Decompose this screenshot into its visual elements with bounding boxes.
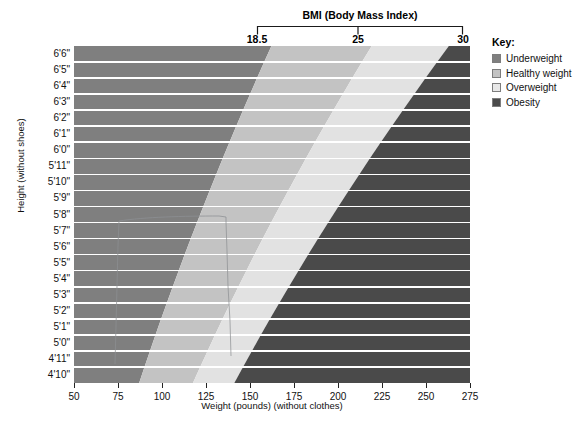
bmi-band-healthy-weight (229, 126, 324, 142)
bmi-band-overweight (208, 335, 261, 351)
bmi-band-healthy-weight (161, 303, 230, 319)
row-separator (74, 254, 470, 256)
y-tick-label: 4'11" (24, 354, 70, 364)
bmi-band-healthy-weight (243, 94, 343, 110)
bmi-band-obesity (298, 255, 470, 271)
legend-label: Underweight (506, 53, 562, 64)
row-separator (74, 109, 470, 111)
bmi-band-obesity (392, 110, 470, 126)
legend-swatch-icon (492, 54, 501, 63)
bmi-band-healthy-weight (173, 271, 247, 287)
row-separator (74, 270, 470, 272)
bmi-tick-label-25: 25 (338, 33, 378, 45)
bmi-band-overweight (200, 351, 252, 367)
legend-items: UnderweightHealthy weightOverweightObesi… (492, 53, 587, 108)
bmi-band-obesity (270, 303, 470, 319)
bmi-band-obesity (370, 142, 470, 158)
y-tick-label: 5'1" (24, 322, 70, 332)
bmi-band-underweight (74, 142, 229, 158)
row-separator (74, 350, 470, 352)
y-tick-label: 6'0" (24, 145, 70, 155)
bmi-band-healthy-weight (191, 223, 271, 239)
bmi-band-obesity (318, 223, 470, 239)
row-separator (74, 141, 470, 143)
y-tick-label: 5'6" (24, 242, 70, 252)
row-separator (74, 174, 470, 176)
row-separator (74, 93, 470, 95)
bmi-band-overweight (352, 62, 437, 78)
legend-swatch-icon (492, 98, 501, 107)
y-tick-label: 5'10" (24, 177, 70, 187)
bmi-band-obesity (381, 126, 470, 142)
bmi-band-overweight (263, 223, 328, 239)
bmi-tick-label-18-5: 18.5 (237, 33, 277, 45)
row-separator (74, 206, 470, 208)
bmi-band-overweight (306, 142, 381, 158)
bmi-band-healthy-weight (179, 255, 255, 271)
x-tick-mark (250, 383, 251, 388)
bmi-band-overweight (193, 367, 243, 383)
bmi-band-overweight (255, 239, 319, 255)
bmi-band-overweight (246, 255, 308, 271)
x-tick-mark (118, 383, 119, 388)
bmi-band-overweight (333, 94, 414, 110)
legend-item: Underweight (492, 53, 587, 64)
bmi-band-underweight (74, 46, 271, 62)
y-tick-label: 6'3" (24, 97, 70, 107)
bmi-band-underweight (74, 223, 197, 239)
bmi-band-obesity (279, 287, 470, 303)
row-separator (74, 286, 470, 288)
bmi-band-obesity (243, 351, 470, 367)
bmi-band-underweight (74, 206, 203, 222)
bmi-band-obesity (338, 190, 470, 206)
x-tick-mark (338, 383, 339, 388)
y-tick-label: 6'5" (24, 65, 70, 75)
legend-item: Healthy weight (492, 68, 587, 79)
bmi-band-healthy-weight (223, 142, 315, 158)
y-tick-label: 5'2" (24, 306, 70, 316)
y-tick-label: 6'2" (24, 113, 70, 123)
y-tick-label: 5'5" (24, 258, 70, 268)
bmi-band-obesity (289, 271, 470, 287)
legend-label: Healthy weight (506, 68, 572, 79)
bmi-band-underweight (74, 335, 156, 351)
bmi-band-underweight (74, 174, 216, 190)
bmi-tick-label-30: 30 (443, 33, 483, 45)
bmi-band-healthy-weight (139, 367, 200, 383)
y-tick-label: 5'3" (24, 290, 70, 300)
x-tick-mark (382, 383, 383, 388)
bmi-band-healthy-weight (264, 46, 372, 62)
bmi-band-healthy-weight (203, 190, 288, 206)
bmi-band-overweight (215, 319, 270, 335)
y-tick-label: 6'1" (24, 129, 70, 139)
y-tick-label: 6'4" (24, 81, 70, 91)
bmi-band-obesity (349, 174, 470, 190)
bmi-band-healthy-weight (185, 239, 263, 255)
bmi-band-underweight (74, 367, 145, 383)
bmi-band-overweight (288, 174, 359, 190)
bmi-band-underweight (74, 271, 179, 287)
bmi-band-overweight (280, 190, 349, 206)
bmi-band-underweight (74, 351, 150, 367)
bmi-band-overweight (343, 78, 426, 94)
x-tick-mark (206, 383, 207, 388)
legend: Key: UnderweightHealthy weightOverweight… (492, 36, 587, 111)
row-separator (74, 302, 470, 304)
bmi-band-underweight (74, 190, 210, 206)
bmi-band-underweight (74, 94, 250, 110)
bmi-band-obesity (252, 335, 470, 351)
bmi-band-healthy-weight (150, 335, 215, 351)
bmi-band-underweight (74, 78, 257, 94)
legend-swatch-icon (492, 69, 501, 78)
y-tick-label: 5'9" (24, 193, 70, 203)
bmi-band-obesity (359, 158, 470, 174)
bmi-band-obesity (234, 367, 470, 383)
row-separator (74, 318, 470, 320)
x-axis-title: Weight (pounds) (without clothes) (74, 400, 470, 411)
bmi-band-healthy-weight (156, 319, 223, 335)
y-tick-label: 4'10" (24, 370, 70, 380)
legend-swatch-icon (492, 83, 501, 92)
bmi-bracket (0, 25, 587, 35)
bmi-band-underweight (74, 158, 223, 174)
row-separator (74, 366, 470, 368)
